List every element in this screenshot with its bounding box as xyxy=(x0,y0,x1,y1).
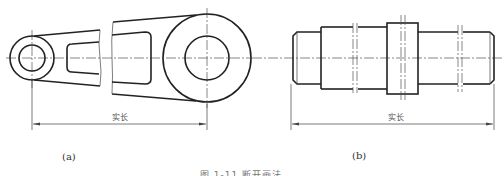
panel-b-drawing xyxy=(252,15,504,130)
break-line-right xyxy=(112,22,113,94)
technical-drawing xyxy=(0,0,504,176)
dimension-text-b: 实长 xyxy=(388,111,404,122)
arrowhead-b-right xyxy=(486,123,493,126)
arrowhead-a-right xyxy=(199,123,206,126)
panel-label-b: (b) xyxy=(352,150,366,161)
shaft-collar xyxy=(387,23,418,94)
panel-a-drawing xyxy=(6,8,252,130)
dimension-text-a: 实长 xyxy=(112,111,128,122)
panel-label-a: (a) xyxy=(62,151,76,162)
arm-top-edge-left xyxy=(34,30,100,36)
arrowhead-a-left xyxy=(33,123,40,126)
arm-bottom-edge-left xyxy=(34,80,100,86)
arrowhead-b-left xyxy=(292,123,299,126)
figure-caption: 图 1-11 断开画法 xyxy=(200,168,282,176)
